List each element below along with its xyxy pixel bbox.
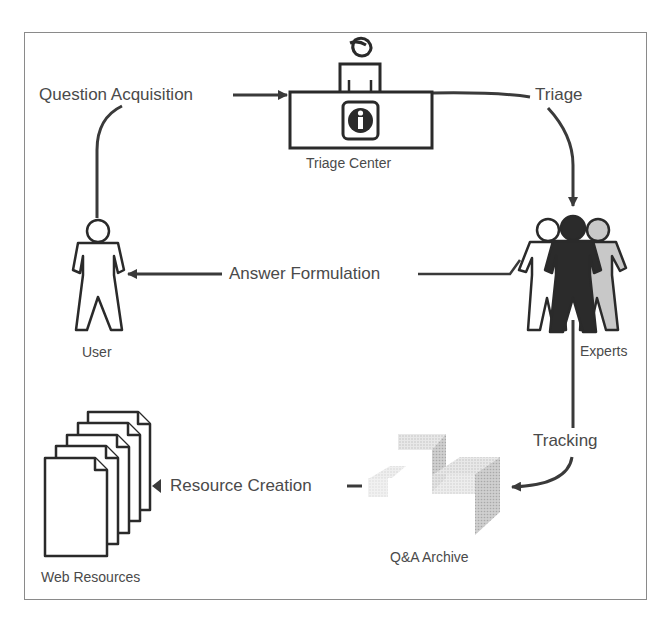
edge-label-tracking: Tracking xyxy=(533,432,598,449)
info-icon xyxy=(343,102,378,139)
document-stack-icon xyxy=(45,412,150,556)
edge-tracking xyxy=(512,320,573,487)
node-label-triage-center: Triage Center xyxy=(306,156,391,170)
edge-question-acquisition xyxy=(97,95,287,218)
edge-label-question-acquisition: Question Acquisition xyxy=(39,86,193,103)
node-label-web-resources: Web Resources xyxy=(41,570,140,584)
edge-label-answer-formulation: Answer Formulation xyxy=(229,265,380,282)
node-label-qa-archive: Q&A Archive xyxy=(390,550,469,564)
triage-center-icon xyxy=(290,38,432,148)
archive-cubes-icon xyxy=(368,434,500,535)
user-icon xyxy=(73,220,124,330)
expert-group-icon xyxy=(519,216,626,332)
node-label-user: User xyxy=(82,345,112,359)
edge-triage xyxy=(432,93,573,206)
edge-label-triage: Triage xyxy=(535,86,583,103)
node-label-experts: Experts xyxy=(580,344,627,358)
edge-label-resource-creation: Resource Creation xyxy=(170,477,312,494)
